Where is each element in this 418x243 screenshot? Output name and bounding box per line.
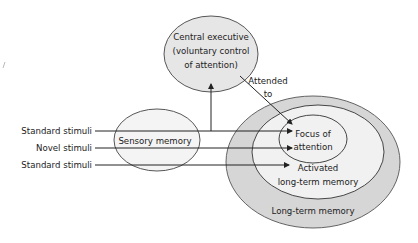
- focus-of-attention-ellipse: [279, 115, 347, 163]
- stray-mark: [3, 62, 5, 68]
- memory-model-diagram: Central executive (voluntary control of …: [0, 0, 418, 243]
- long-term-memory-label: Long-term memory: [272, 206, 355, 216]
- central-executive-label-line-1: Central executive: [173, 32, 249, 42]
- central-executive-label-line-2: (voluntary control: [173, 46, 250, 56]
- activated-ltm-label-line-1: Activated: [298, 163, 339, 173]
- focus-of-attention-label-line-2: attention: [293, 142, 332, 152]
- sensory-memory-label: Sensory memory: [118, 136, 191, 146]
- central-executive-label-line-3: of attention): [184, 60, 238, 70]
- focus-of-attention-label-line-1: Focus of: [295, 129, 332, 139]
- stimulus-label-1: Standard stimuli: [21, 126, 92, 136]
- attended-label-line-1: Attended: [248, 76, 287, 86]
- attended-label-line-2: to: [264, 89, 273, 99]
- stimulus-label-3: Standard stimuli: [21, 160, 92, 170]
- activated-ltm-label-line-2: long-term memory: [278, 177, 359, 187]
- stimulus-label-2: Novel stimuli: [36, 143, 92, 153]
